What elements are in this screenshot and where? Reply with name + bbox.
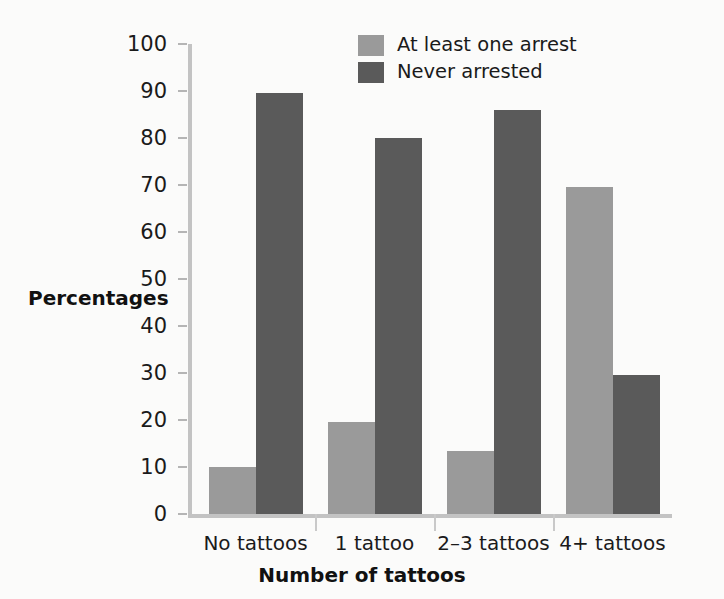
x-axis-title: Number of tattoos <box>0 565 724 585</box>
y-axis-tick: 30 <box>178 372 187 374</box>
y-axis-tick-label: 40 <box>140 316 167 337</box>
bar-chart-figure: At least one arrestNever arrested 010203… <box>0 0 724 599</box>
bar <box>375 138 422 514</box>
bar <box>566 187 613 514</box>
x-axis-line <box>188 514 672 518</box>
y-axis-tick: 20 <box>178 419 187 421</box>
y-axis-tick: 100 <box>178 43 187 45</box>
x-axis-tick <box>553 514 555 531</box>
plot-area: 0102030405060708090100No tattoos1 tattoo… <box>196 44 672 514</box>
bar-group <box>553 44 672 514</box>
y-axis-tick-label: 100 <box>127 34 167 55</box>
bar-group <box>196 44 315 514</box>
y-axis-tick-label: 90 <box>140 81 167 102</box>
bar <box>447 451 494 514</box>
y-axis-tick: 10 <box>178 466 187 468</box>
bar <box>256 93 303 514</box>
x-axis-category-label: 2–3 tattoos <box>434 533 553 553</box>
x-axis-category-label: 4+ tattoos <box>553 533 672 553</box>
x-axis-category-label: 1 tattoo <box>315 533 434 553</box>
y-axis-tick-label: 10 <box>140 457 167 478</box>
y-axis-tick-label: 60 <box>140 222 167 243</box>
x-axis-category-label: No tattoos <box>196 533 315 553</box>
y-axis-tick: 90 <box>178 90 187 92</box>
y-axis-tick-label: 70 <box>140 175 167 196</box>
bar <box>494 110 541 514</box>
bar <box>328 422 375 514</box>
y-axis-line <box>188 44 192 514</box>
y-axis-tick-label: 20 <box>140 410 167 431</box>
bar-group <box>434 44 553 514</box>
y-axis-tick: 50 <box>178 278 187 280</box>
y-axis-tick-label: 80 <box>140 128 167 149</box>
y-axis-title: Percentages <box>28 288 169 308</box>
x-axis-tick <box>315 514 317 531</box>
y-axis-tick: 70 <box>178 184 187 186</box>
y-axis-tick-label: 0 <box>154 504 167 525</box>
y-axis-tick: 40 <box>178 325 187 327</box>
x-axis-tick <box>434 514 436 531</box>
bar <box>209 467 256 514</box>
bar-group <box>315 44 434 514</box>
y-axis-tick: 60 <box>178 231 187 233</box>
y-axis-tick-label: 30 <box>140 363 167 384</box>
y-axis-tick: 80 <box>178 137 187 139</box>
bar <box>613 375 660 514</box>
y-axis-tick: 0 <box>178 513 187 515</box>
